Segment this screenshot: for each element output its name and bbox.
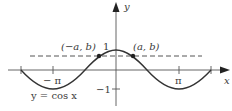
point-left-label: (−a, b)	[61, 41, 96, 52]
y-axis-label: y	[123, 1, 130, 12]
point-a-b	[131, 54, 135, 58]
y-axis-arrow-icon	[113, 2, 120, 12]
curve-label: y = cos x	[30, 90, 77, 101]
x-axis-arrow-icon	[220, 67, 230, 74]
neg-pi-label: − π	[43, 75, 62, 86]
one-label: 1	[103, 41, 109, 52]
neg-one-label: −1	[96, 84, 111, 95]
x-axis-label: x	[224, 75, 230, 86]
pi-label: π	[175, 75, 182, 86]
point-right-label: (a, b)	[133, 41, 160, 52]
point-neg-a-b	[97, 54, 101, 58]
cosine-graph: y x − π π 1 −1 (−a, b) (a, b) y = cos x	[0, 0, 232, 111]
